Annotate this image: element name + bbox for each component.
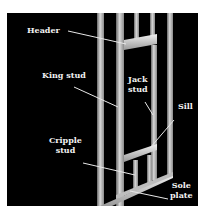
label-cripple-stud: Cripple stud xyxy=(49,135,82,155)
wall-framing-diagram: Header King stud Jack stud Sill Cripple … xyxy=(0,0,205,214)
label-header: Header xyxy=(27,25,60,35)
cripple-stud xyxy=(147,155,152,183)
stud-left xyxy=(97,13,104,206)
label-jack-stud: Jack stud xyxy=(128,74,148,94)
label-sole-plate: Sole plate xyxy=(170,180,193,200)
label-sill: Sill xyxy=(178,101,193,111)
label-king-stud: King stud xyxy=(42,70,86,80)
stud-right xyxy=(167,13,173,178)
